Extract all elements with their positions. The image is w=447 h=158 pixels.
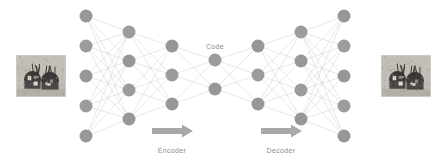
network-node — [338, 10, 351, 23]
network-edge — [301, 32, 344, 136]
network-node — [338, 40, 351, 53]
network-edge — [301, 32, 344, 46]
network-node — [252, 69, 265, 82]
network-edge — [258, 32, 301, 46]
network-node — [80, 10, 93, 23]
network-node — [295, 26, 308, 39]
network-node — [338, 130, 351, 143]
output-image — [381, 55, 431, 97]
network-edge — [301, 61, 344, 136]
network-edge — [86, 61, 129, 136]
network-node — [209, 54, 222, 67]
network-node — [166, 40, 179, 53]
network-edge — [86, 16, 129, 90]
network-node — [166, 69, 179, 82]
network-node — [80, 40, 93, 53]
network-edge — [86, 90, 129, 136]
network-edge — [215, 46, 258, 89]
network-node — [338, 70, 351, 83]
network-edge — [301, 32, 344, 106]
network-node — [338, 100, 351, 113]
network-node — [295, 113, 308, 126]
network-edge — [258, 32, 301, 104]
decoder-label: Decoder — [267, 147, 296, 154]
network-node — [209, 83, 222, 96]
network-edge — [86, 76, 129, 90]
network-node — [123, 26, 136, 39]
network-edge — [129, 46, 172, 119]
network-edge — [86, 32, 129, 136]
photo-content — [382, 56, 431, 97]
network-edge — [129, 75, 172, 119]
network-edge — [86, 32, 129, 46]
network-node — [123, 84, 136, 97]
network-edge — [258, 32, 301, 75]
network-edge — [301, 119, 344, 136]
network-edge — [172, 89, 215, 104]
neural-network-graph — [0, 0, 447, 158]
network-edge — [301, 90, 344, 136]
autoencoder-diagram: Code Encoder Decoder — [0, 0, 447, 158]
network-edge — [86, 119, 129, 136]
network-node — [295, 55, 308, 68]
network-edge — [129, 46, 172, 90]
decoder-arrow — [261, 125, 302, 138]
network-node — [252, 40, 265, 53]
network-edge — [86, 32, 129, 106]
network-node — [295, 84, 308, 97]
network-edge — [129, 104, 172, 119]
network-edge — [172, 60, 215, 75]
network-edge — [215, 89, 258, 104]
network-edge — [86, 16, 129, 32]
code-label: Code — [206, 43, 224, 50]
network-node — [166, 98, 179, 111]
network-node — [123, 113, 136, 126]
network-node — [80, 100, 93, 113]
network-edge — [258, 61, 301, 104]
network-node — [80, 70, 93, 83]
encoder-arrow — [152, 125, 193, 138]
network-node — [252, 98, 265, 111]
network-edge — [172, 60, 215, 104]
network-edge — [301, 16, 344, 32]
network-node — [80, 130, 93, 143]
network-edge — [258, 90, 301, 104]
flow-arrows — [152, 125, 302, 138]
network-edge — [301, 61, 344, 76]
network-node — [123, 55, 136, 68]
encoder-label: Encoder — [158, 147, 187, 154]
network-edge — [258, 104, 301, 119]
network-edge — [215, 75, 258, 89]
network-edge — [301, 16, 344, 90]
network-edge — [129, 46, 172, 61]
network-edge — [129, 32, 172, 46]
